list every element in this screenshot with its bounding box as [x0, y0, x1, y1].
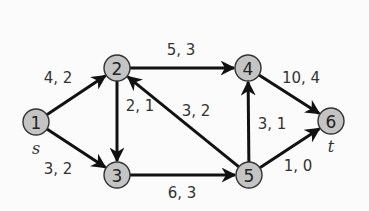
- edge-label-5-4: 3, 1: [258, 115, 287, 133]
- edge-label-5-2: 3, 2: [182, 102, 211, 120]
- node-2: 2: [104, 55, 130, 81]
- edge-label-5-6: 1, 0: [284, 157, 313, 175]
- node-5: 5: [236, 162, 262, 188]
- edge-label-1-2: 4, 2: [44, 69, 73, 87]
- node-label: 6: [326, 112, 337, 132]
- node-label: 3: [112, 166, 123, 186]
- node-3: 3: [104, 162, 130, 188]
- edge-label-4-6: 10, 4: [282, 69, 320, 87]
- source-label: s: [32, 139, 40, 158]
- node-6: 6: [318, 108, 344, 134]
- node-label: 5: [244, 166, 255, 186]
- edge-5-2: [128, 77, 239, 167]
- node-label: 1: [31, 113, 42, 133]
- sink-label: t: [328, 137, 335, 156]
- edge-label-2-4: 5, 3: [167, 41, 196, 59]
- node-label: 2: [112, 59, 123, 79]
- edge-label-1-3: 3, 2: [44, 160, 73, 178]
- node-1: 1: [23, 109, 49, 135]
- edge-5-4: [248, 82, 249, 162]
- edge-label-2-3: 2, 1: [126, 97, 155, 115]
- edge-label-3-5: 6, 3: [168, 184, 197, 202]
- node-label: 4: [243, 59, 254, 79]
- node-4: 4: [235, 55, 261, 81]
- flow-network-diagram: 4, 23, 25, 32, 13, 26, 33, 110, 41, 0 12…: [0, 0, 369, 211]
